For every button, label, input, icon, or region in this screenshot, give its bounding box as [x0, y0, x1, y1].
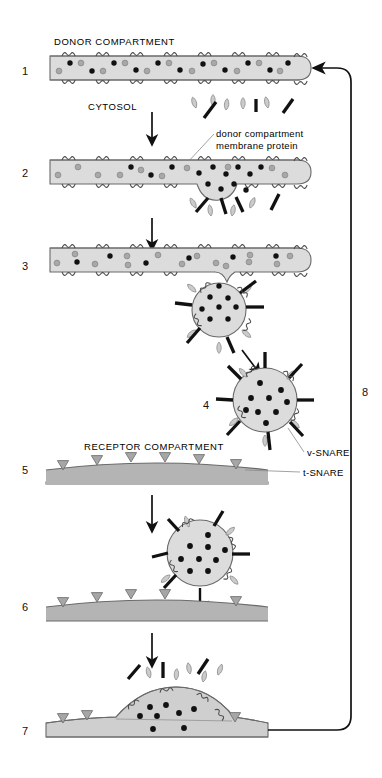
receptor-compartment-label: RECEPTOR COMPARTMENT [84, 441, 224, 452]
step-6-number: 6 [22, 601, 28, 613]
step-5-number: 5 [22, 464, 28, 476]
membrane-protein-label-line2: membrane protein [216, 140, 298, 151]
canvas-bg [0, 0, 382, 778]
vsnare-label: v-SNARE [307, 447, 350, 458]
cytosol-label: CYTOSOL [88, 101, 137, 112]
membrane-protein-label-line1: donor compartment [216, 128, 304, 139]
step-1-group: 1 [22, 53, 311, 85]
step-2-number: 2 [22, 167, 28, 179]
step-4-number: 4 [203, 399, 209, 411]
diagram-canvas: DONOR COMPARTMENT 1 [0, 0, 382, 778]
donor-compartment-label: DONOR COMPARTMENT [54, 36, 175, 47]
donor-tubule-1 [50, 53, 311, 85]
step-7-number: 7 [22, 725, 28, 737]
step-1-number: 1 [22, 65, 28, 77]
tsnare-label: t-SNARE [303, 467, 344, 478]
step-3-number: 3 [22, 260, 28, 272]
step-8-number: 8 [362, 386, 368, 398]
vesicle-transport-diagram: DONOR COMPARTMENT 1 [0, 0, 382, 778]
